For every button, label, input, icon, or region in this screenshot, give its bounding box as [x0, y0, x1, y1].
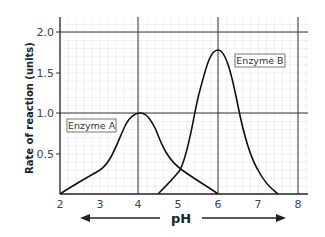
chart: 2.0 1.5 1.0 0.5 2 3 4 5 6 7 8 Rate of re…	[0, 0, 325, 237]
x-tick-2: 2	[57, 198, 64, 211]
y-tick-2.0: 2.0	[37, 26, 55, 39]
x-tick-5: 5	[175, 198, 182, 211]
x-tick-8: 8	[295, 198, 302, 211]
y-tick-labels: 2.0 1.5 1.0 0.5	[37, 26, 55, 161]
enzyme-a-label: Enzyme A	[67, 119, 116, 132]
y-tick-1.0: 1.0	[37, 107, 55, 120]
x-tick-3: 3	[97, 198, 104, 211]
y-axis-label: Rate of reaction (units)	[24, 42, 35, 174]
enzyme-b-text: Enzyme B	[236, 55, 283, 66]
y-tick-1.5: 1.5	[37, 67, 55, 80]
enzyme-a-text: Enzyme A	[68, 120, 116, 131]
x-tick-7: 7	[255, 198, 262, 211]
y-tick-0.5: 0.5	[37, 148, 55, 161]
x-tick-4: 4	[135, 198, 142, 211]
x-tick-6: 6	[215, 198, 222, 211]
minor-grid	[60, 17, 308, 194]
x-tick-labels: 2 3 4 5 6 7 8	[57, 198, 302, 211]
enzyme-b-label: Enzyme B	[235, 54, 285, 67]
x-axis-label: pH	[171, 211, 191, 226]
